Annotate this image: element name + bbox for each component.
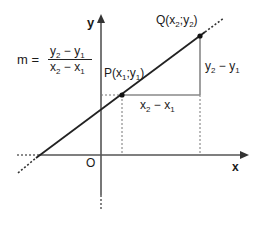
x-axis-label: x: [232, 160, 239, 174]
formula-numerator: y2 − y1: [50, 44, 85, 60]
run-label: x2 − x1: [140, 98, 175, 114]
y-axis-label: y: [87, 15, 95, 30]
rise-label: y2 − y1: [205, 59, 240, 75]
slope-diagram: y x O m = y2 − y1 x2 − x1 P(x1;y1) Q(x2;…: [0, 0, 259, 226]
point-q: [197, 33, 202, 38]
point-q-label: Q(x2;y2): [156, 13, 198, 29]
formula-lhs: m =: [17, 52, 39, 67]
x-axis: [17, 151, 249, 159]
point-p-label: P(x1;y1): [104, 66, 144, 82]
slope-formula: m = y2 − y1 x2 − x1: [17, 44, 92, 76]
origin-label: O: [86, 156, 95, 170]
formula-denominator: x2 − x1: [50, 60, 85, 76]
point-p: [119, 92, 124, 97]
y-axis-arrow-icon: [97, 14, 105, 23]
x-axis-arrow-icon: [240, 151, 249, 159]
